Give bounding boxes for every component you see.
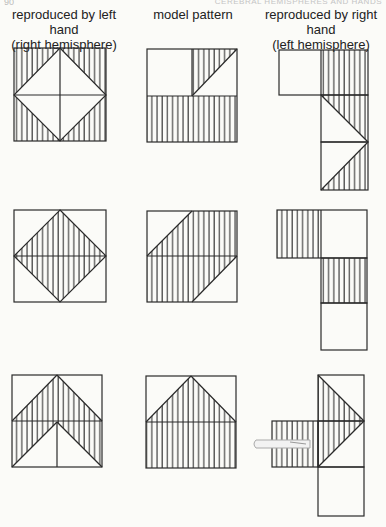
row2-left-figure xyxy=(14,210,106,302)
row1-left-figure xyxy=(14,48,106,141)
row3-left-figure xyxy=(12,375,102,467)
row3-model-figure xyxy=(146,376,236,468)
row2-right-figure xyxy=(277,210,367,350)
figure-canvas xyxy=(0,0,386,527)
row2-model-figure xyxy=(147,211,237,302)
row1-right-figure xyxy=(279,50,368,190)
row1-model-figure xyxy=(147,49,237,142)
pen-icon xyxy=(254,440,310,448)
